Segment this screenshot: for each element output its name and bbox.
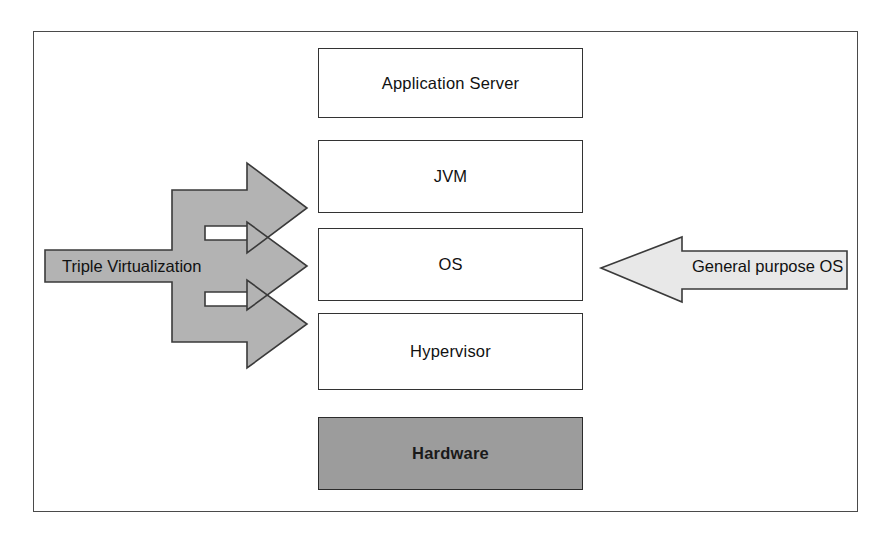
- stack-box-label-hardware: Hardware: [412, 445, 489, 462]
- triple-virtualization-label: Triple Virtualization: [62, 258, 201, 275]
- stack-box-hypervisor: Hypervisor: [318, 313, 583, 390]
- stack-box-label-jvm: JVM: [434, 168, 468, 185]
- diagram-canvas: Application Server JVM OS Hypervisor Har…: [0, 0, 887, 533]
- stack-box-label-os: OS: [438, 256, 462, 273]
- stack-box-label-hypervisor: Hypervisor: [410, 343, 491, 360]
- stack-box-os: OS: [318, 228, 583, 301]
- stack-box-application-server: Application Server: [318, 48, 583, 118]
- stack-box-label-application-server: Application Server: [382, 75, 520, 92]
- stack-box-hardware: Hardware: [318, 417, 583, 490]
- stack-box-jvm: JVM: [318, 140, 583, 213]
- general-purpose-os-label: General purpose OS: [692, 258, 843, 275]
